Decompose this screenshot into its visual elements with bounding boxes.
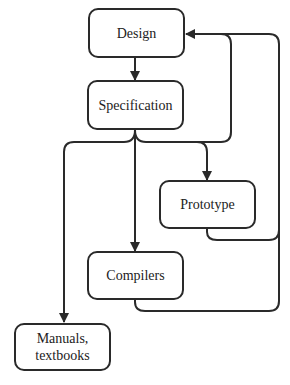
edge-inner-loop-join xyxy=(197,34,231,142)
node-design: Design xyxy=(88,8,185,58)
node-manuals: Manuals, textbooks xyxy=(14,323,111,371)
node-prototype: Prototype xyxy=(159,180,256,229)
node-specification-label: Specification xyxy=(99,97,173,114)
node-design-label: Design xyxy=(117,25,157,42)
node-prototype-label: Prototype xyxy=(180,196,234,213)
node-manuals-label: Manuals, textbooks xyxy=(35,330,89,364)
node-specification: Specification xyxy=(87,80,184,130)
node-compilers-label: Compilers xyxy=(106,267,164,284)
edge-specification-prototype xyxy=(135,130,207,180)
node-compilers: Compilers xyxy=(87,251,184,300)
